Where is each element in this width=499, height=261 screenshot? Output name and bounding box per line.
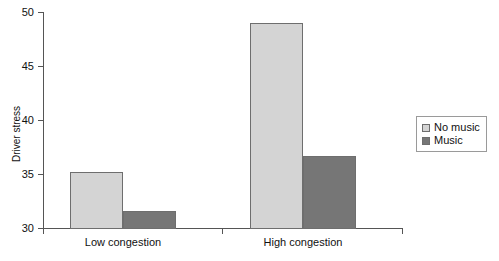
legend: No music Music: [416, 116, 487, 152]
y-axis-tick-label-45: 45: [8, 61, 34, 72]
legend-item-no-music: No music: [422, 121, 480, 134]
x-axis-tick-start: [43, 229, 44, 234]
bar-high-congestion-no-music: [250, 23, 303, 229]
bar-chart: Driver stress 50 45 40 35 30 Low congest…: [0, 0, 499, 261]
legend-label-no-music: No music: [434, 122, 480, 133]
legend-swatch-music: [422, 137, 430, 145]
y-axis-tick-label-35: 35: [8, 169, 34, 180]
y-axis-tick-label-30: 30: [8, 223, 34, 234]
x-axis-tick-label-low-congestion: Low congestion: [63, 237, 183, 248]
bar-low-congestion-no-music: [70, 172, 123, 229]
y-axis-tick-label-40: 40: [8, 115, 34, 126]
x-axis-tick-middle: [222, 229, 223, 234]
y-axis-tick-50: [38, 12, 43, 13]
bar-low-congestion-music: [123, 211, 176, 229]
y-axis-line: [43, 12, 44, 228]
y-axis-tick-35: [38, 174, 43, 175]
legend-item-music: Music: [422, 134, 480, 147]
x-axis-tick-end: [402, 229, 403, 234]
y-axis-tick-40: [38, 120, 43, 121]
legend-swatch-no-music: [422, 124, 430, 132]
bar-high-congestion-music: [303, 156, 356, 229]
x-axis-tick-label-high-congestion: High congestion: [243, 237, 363, 248]
y-axis-tick-label-50: 50: [8, 7, 34, 18]
legend-label-music: Music: [434, 135, 463, 146]
y-axis-tick-45: [38, 66, 43, 67]
